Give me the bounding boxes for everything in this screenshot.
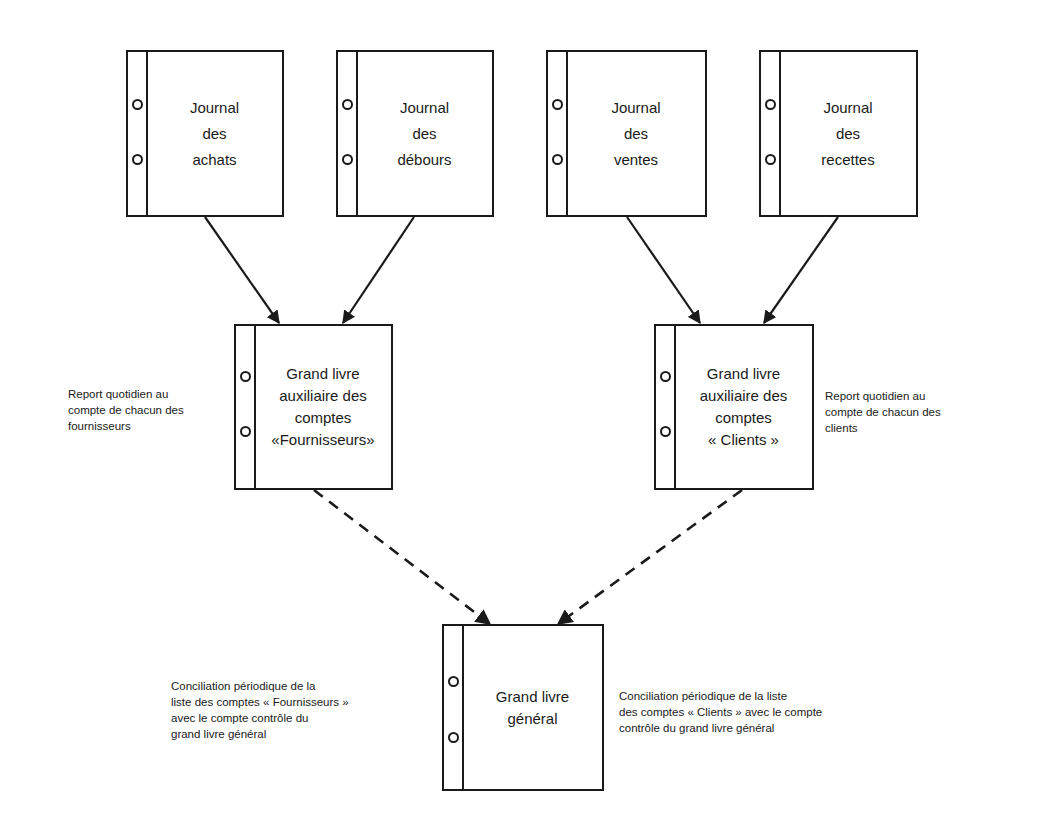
dashed-arrow-fournisseurs-to-general bbox=[314, 490, 490, 624]
book-spine bbox=[548, 52, 568, 215]
note-posting-clients: Report quotidien au compte de chacun des… bbox=[825, 388, 941, 436]
binder-ring-icon bbox=[552, 99, 563, 110]
book-title: Grand livre général bbox=[465, 626, 600, 789]
binder-ring-icon bbox=[448, 732, 459, 743]
book-subledger-fournisseurs: Grand livre auxiliaire des comptes «Four… bbox=[234, 324, 393, 490]
binder-ring-icon bbox=[240, 426, 251, 437]
binder-ring-icon bbox=[342, 99, 353, 110]
book-spine bbox=[444, 626, 464, 789]
binder-ring-icon bbox=[660, 426, 671, 437]
arrow-recettes-to-clients bbox=[764, 217, 838, 323]
book-spine bbox=[236, 326, 256, 488]
book-journal-debours: Journal des débours bbox=[336, 50, 494, 217]
book-spine bbox=[761, 52, 781, 215]
book-title: Grand livre auxiliaire des comptes « Cli… bbox=[677, 326, 810, 488]
binder-ring-icon bbox=[660, 371, 671, 382]
book-title: Grand livre auxiliaire des comptes «Four… bbox=[257, 326, 389, 488]
arrow-achats-to-fournisseurs bbox=[205, 217, 279, 323]
book-title: Journal des débours bbox=[359, 52, 490, 215]
book-title: Journal des ventes bbox=[569, 52, 703, 215]
dashed-arrow-clients-to-general bbox=[558, 490, 742, 624]
binder-ring-icon bbox=[552, 154, 563, 165]
binder-ring-icon bbox=[342, 154, 353, 165]
book-title: Journal des recettes bbox=[782, 52, 914, 215]
book-journal-achats: Journal des achats bbox=[126, 50, 284, 217]
book-general-ledger: Grand livre général bbox=[442, 624, 604, 791]
book-title: Journal des achats bbox=[149, 52, 280, 215]
note-posting-suppliers: Report quotidien au compte de chacun des… bbox=[68, 386, 184, 434]
note-reconciliation-suppliers: Conciliation périodique de la liste des … bbox=[171, 678, 349, 742]
book-journal-recettes: Journal des recettes bbox=[759, 50, 918, 217]
binder-ring-icon bbox=[765, 99, 776, 110]
binder-ring-icon bbox=[240, 371, 251, 382]
note-reconciliation-clients: Conciliation périodique de la liste des … bbox=[619, 688, 822, 736]
book-spine bbox=[128, 52, 148, 215]
accounting-flow-diagram: Journal des achats Journal des débours J… bbox=[0, 0, 1037, 825]
binder-ring-icon bbox=[132, 99, 143, 110]
book-spine bbox=[338, 52, 358, 215]
binder-ring-icon bbox=[132, 154, 143, 165]
book-journal-ventes: Journal des ventes bbox=[546, 50, 707, 217]
book-subledger-clients: Grand livre auxiliaire des comptes « Cli… bbox=[654, 324, 814, 490]
binder-ring-icon bbox=[448, 676, 459, 687]
arrow-debours-to-fournisseurs bbox=[343, 217, 414, 323]
arrow-ventes-to-clients bbox=[627, 217, 700, 323]
binder-ring-icon bbox=[765, 154, 776, 165]
book-spine bbox=[656, 326, 676, 488]
